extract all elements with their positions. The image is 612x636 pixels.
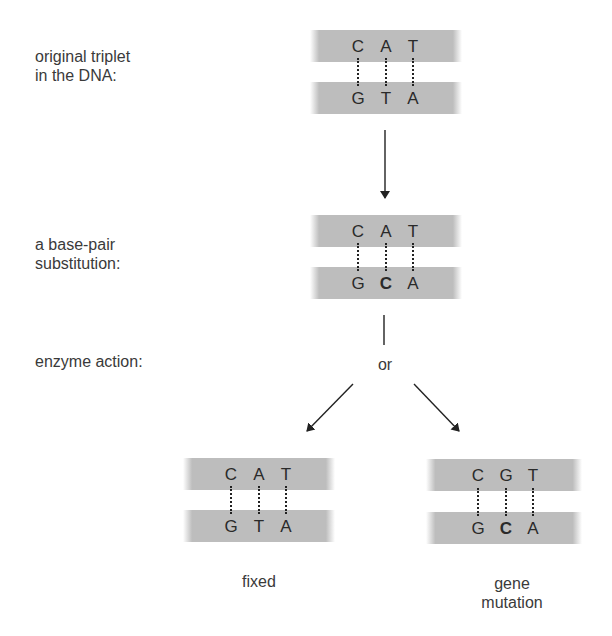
arrow-left-icon	[307, 384, 353, 431]
arrows	[0, 0, 612, 636]
arrow-right-icon	[414, 384, 459, 431]
